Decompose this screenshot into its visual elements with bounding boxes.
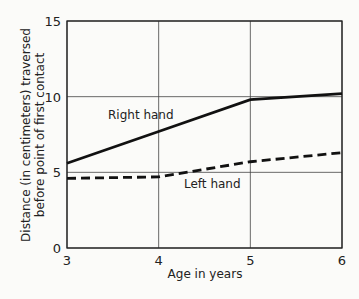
grid xyxy=(67,21,342,248)
x-tick-label: 4 xyxy=(155,253,163,268)
y-axis-label-line2: before point of first contact xyxy=(33,53,47,218)
x-tick-label: 6 xyxy=(338,253,346,268)
x-tick-label: 3 xyxy=(63,253,71,268)
axis-ticks: 3456051015 xyxy=(44,14,346,268)
line-chart: 3456051015 Right hand Left hand Age in y… xyxy=(0,0,359,299)
series-left-hand xyxy=(67,153,342,179)
x-axis-label: Age in years xyxy=(168,267,243,281)
y-axis-label-line1: Distance (in centimeters) traversed xyxy=(19,28,33,242)
plot-frame xyxy=(67,21,342,248)
y-tick-label: 0 xyxy=(53,241,61,256)
annotation-right-hand: Right hand xyxy=(108,108,174,122)
series-right-hand xyxy=(67,94,342,164)
x-tick-label: 5 xyxy=(246,253,254,268)
annotation-left-hand: Left hand xyxy=(184,177,241,191)
y-tick-label: 15 xyxy=(44,14,61,29)
y-tick-label: 5 xyxy=(53,165,61,180)
series-lines xyxy=(67,94,342,179)
